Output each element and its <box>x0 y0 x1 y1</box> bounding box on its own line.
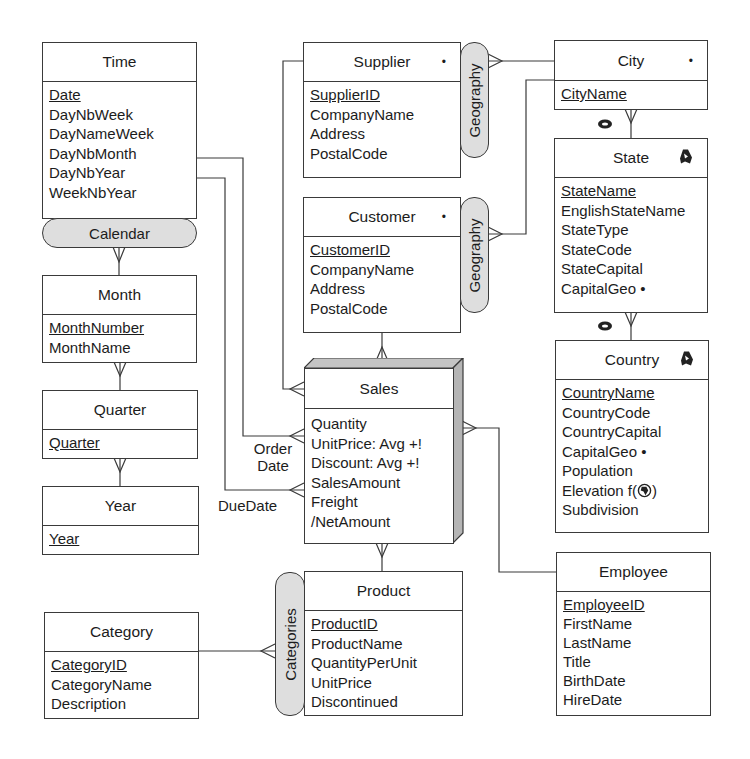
key-attribute: CountryName <box>562 383 708 403</box>
attribute: Address <box>310 279 460 299</box>
attribute-list: Date DayNbWeek DayNameWeek DayNbMonth Da… <box>43 82 196 202</box>
region-geometry-icon <box>679 149 693 168</box>
attribute: Title <box>563 652 710 671</box>
role-label-due-date: DueDate <box>218 497 277 514</box>
level-supplier[interactable]: Supplier • SupplierID CompanyName Addres… <box>303 42 461 178</box>
key-attribute: CategoryID <box>51 655 198 675</box>
attribute: CapitalGeo • <box>562 442 708 462</box>
level-header: Supplier • <box>304 43 460 82</box>
attribute-list: Quarter <box>43 430 197 453</box>
level-header: Country <box>556 341 708 380</box>
attribute-list: Year <box>43 526 198 549</box>
level-employee[interactable]: Employee EmployeeID FirstName LastName T… <box>556 552 711 716</box>
measure: SalesAmount <box>311 473 453 493</box>
level-name: Customer <box>348 208 415 226</box>
attribute: DayNbYear <box>49 163 196 183</box>
level-product[interactable]: Product ProductID ProductName QuantityPe… <box>304 571 463 716</box>
attribute: EnglishStateName <box>561 201 707 221</box>
point-geometry-icon: • <box>442 210 446 224</box>
attribute: CountryCode <box>562 403 708 423</box>
attribute: Population <box>562 461 708 481</box>
hierarchy-calendar[interactable]: Calendar <box>42 218 197 248</box>
attribute-list: CountryName CountryCode CountryCapital C… <box>556 380 708 520</box>
level-name: Supplier <box>354 53 411 71</box>
role-label-line: Date <box>248 457 298 474</box>
fact-sales[interactable]: Sales Quantity UnitPrice: Avg +! Discoun… <box>304 358 464 544</box>
attribute-label: Elevation f( <box>562 482 637 499</box>
key-attribute: CustomerID <box>310 240 460 260</box>
level-quarter[interactable]: Quarter Quarter <box>42 390 198 459</box>
key-attribute: ProductID <box>311 614 462 634</box>
level-name: Category <box>90 623 153 641</box>
attribute-list: CityName <box>555 81 707 104</box>
level-time[interactable]: Time Date DayNbWeek DayNameWeek DayNbMon… <box>42 42 197 219</box>
fact-table: Sales Quantity UnitPrice: Avg +! Discoun… <box>304 368 454 544</box>
attribute: Subdivision <box>562 500 708 520</box>
level-name: Month <box>98 286 141 304</box>
level-country[interactable]: Country CountryName CountryCode CountryC… <box>555 340 709 533</box>
hierarchy-label: Geography <box>466 218 483 292</box>
attribute: ProductName <box>311 634 462 654</box>
attribute-list: CustomerID CompanyName Address PostalCod… <box>304 237 460 318</box>
key-attribute: MonthNumber <box>49 318 196 338</box>
measure: UnitPrice: Avg +! <box>311 434 453 454</box>
level-header: Customer • <box>304 198 460 237</box>
level-city[interactable]: City • CityName <box>554 40 708 110</box>
attribute-list: CategoryID CategoryName Description <box>45 652 198 714</box>
key-attribute: StateName <box>561 181 707 201</box>
attribute: HireDate <box>563 690 710 709</box>
attribute: WeekNbYear <box>49 183 196 203</box>
level-name: Time <box>103 53 137 71</box>
schema-diagram: Time Date DayNbWeek DayNameWeek DayNbMon… <box>0 0 750 759</box>
level-header: State <box>555 139 707 178</box>
level-year[interactable]: Year Year <box>42 486 199 555</box>
fact-header: Sales <box>305 369 453 409</box>
attribute: CountryCapital <box>562 422 708 442</box>
fact-name: Sales <box>360 380 399 398</box>
attribute: StateCode <box>561 240 707 260</box>
level-name: Country <box>605 351 659 369</box>
key-attribute: Year <box>49 529 198 549</box>
level-customer[interactable]: Customer • CustomerID CompanyName Addres… <box>303 197 461 333</box>
attribute: DayNbMonth <box>49 144 196 164</box>
level-header: Employee <box>557 553 710 592</box>
hierarchy-categories[interactable]: Categories <box>275 572 305 716</box>
key-attribute: Quarter <box>49 433 197 453</box>
attribute: QuantityPerUnit <box>311 653 462 673</box>
role-label-line: Order <box>248 440 298 457</box>
attribute: StateCapital <box>561 259 707 279</box>
key-attribute: CityName <box>561 84 707 104</box>
attribute: LastName <box>563 633 710 652</box>
attribute: PostalCode <box>310 299 460 319</box>
attribute: CompanyName <box>310 260 460 280</box>
hierarchy-geography-customer[interactable]: Geography <box>460 197 489 313</box>
attribute: BirthDate <box>563 671 710 690</box>
region-geometry-icon <box>680 351 694 370</box>
attribute-list: EmployeeID FirstName LastName Title Birt… <box>557 592 710 709</box>
level-name: Quarter <box>94 401 147 419</box>
point-geometry-icon: • <box>689 54 693 68</box>
level-header: City • <box>555 41 707 81</box>
level-month[interactable]: Month MonthNumber MonthName <box>42 275 197 363</box>
measure: /NetAmount <box>311 512 453 532</box>
attribute: CompanyName <box>310 105 460 125</box>
hierarchy-label: Categories <box>282 608 299 681</box>
key-attribute: Date <box>49 85 196 105</box>
hierarchy-label: Calendar <box>89 225 150 242</box>
point-geometry-icon: • <box>442 55 446 69</box>
attribute: Discontinued <box>311 692 462 712</box>
attribute: StateType <box>561 220 707 240</box>
level-state[interactable]: State StateName EnglishStateName StateTy… <box>554 138 708 313</box>
hierarchy-geography-supplier[interactable]: Geography <box>460 42 489 158</box>
attribute: FirstName <box>563 614 710 633</box>
level-header: Category <box>45 613 198 652</box>
measure: Freight <box>311 492 453 512</box>
attribute-list: ProductID ProductName QuantityPerUnit Un… <box>305 611 462 712</box>
level-header: Year <box>43 487 198 526</box>
attribute: CapitalGeo • <box>561 279 707 299</box>
level-name: Employee <box>599 563 668 581</box>
attribute: PostalCode <box>310 144 460 164</box>
attribute-suffix: ) <box>652 482 657 499</box>
level-category[interactable]: Category CategoryID CategoryName Descrip… <box>44 612 199 719</box>
attribute: DayNbWeek <box>49 105 196 125</box>
